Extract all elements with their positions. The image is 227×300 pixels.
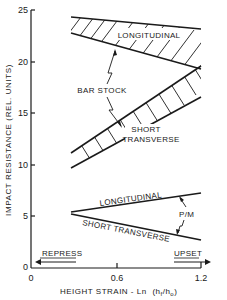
bar-stock-annotation: BAR STOCK <box>77 49 127 128</box>
svg-text:0.6: 0.6 <box>111 273 124 283</box>
svg-text:REPRESS: REPRESS <box>42 249 82 258</box>
svg-text:5: 5 <box>23 211 28 221</box>
svg-text:0: 0 <box>28 273 33 283</box>
svg-text:1.2: 1.2 <box>195 273 208 283</box>
y-tick-labels: 25 20 15 10 5 0 <box>18 5 28 272</box>
upset-annotation: UPSET <box>174 249 211 265</box>
svg-text:UPSET: UPSET <box>174 249 202 258</box>
svg-text:15: 15 <box>18 108 28 118</box>
svg-text:HEIGHT STRAIN - Ln (hf/h: HEIGHT STRAIN - Ln (hf/ho) <box>60 287 177 297</box>
svg-text:25: 25 <box>18 5 28 15</box>
svg-text:0: 0 <box>23 262 28 272</box>
chart: 25 20 15 10 5 0 0 0.6 1.2 IMPACT RESISTA… <box>0 0 227 300</box>
x-axis-label: HEIGHT STRAIN - Ln (hf/ho) <box>60 287 177 297</box>
pm-longitudinal-label: LONGITUDINAL <box>99 190 163 208</box>
svg-text:BAR STOCK: BAR STOCK <box>77 86 127 95</box>
x-tick-labels: 0 0.6 1.2 <box>28 273 207 283</box>
y-axis-label: IMPACT RESISTANCE (REL. UNITS) <box>4 64 13 216</box>
bar-stock-short-transverse-band: SHORT TRANSVERSE <box>71 50 220 175</box>
svg-text:P/M: P/M <box>179 210 194 219</box>
svg-text:TRANSVERSE: TRANSVERSE <box>122 135 179 144</box>
repress-annotation: REPRESS <box>35 249 82 265</box>
svg-text:20: 20 <box>18 57 28 67</box>
pm-annotation: P/M <box>176 196 194 235</box>
svg-text:LONGITUDINAL: LONGITUDINAL <box>118 31 181 40</box>
svg-text:10: 10 <box>18 160 28 170</box>
svg-text:SHORT: SHORT <box>131 125 160 134</box>
